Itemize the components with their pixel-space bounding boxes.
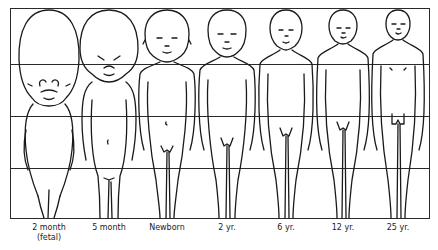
diagram-canvas <box>0 0 438 250</box>
label-text: 2 month <box>19 223 79 233</box>
label-2-yr: 2 yr. <box>197 223 257 233</box>
figure-newborn <box>139 10 195 218</box>
figure-5-month <box>80 10 138 218</box>
proportion-diagram: 2 month (fetal) 5 month Newborn 2 yr. 6 … <box>0 0 438 250</box>
diagram-frame <box>11 9 430 219</box>
label-6-yr: 6 yr. <box>256 223 316 233</box>
label-2-month: 2 month (fetal) <box>19 223 79 243</box>
figure-6-yr <box>259 10 313 218</box>
figure-12-yr <box>317 10 369 218</box>
label-25-yr: 25 yr. <box>368 223 428 233</box>
figure-2-month-fetal <box>19 10 79 218</box>
label-12-yr: 12 yr. <box>313 223 373 233</box>
label-newborn: Newborn <box>137 223 197 233</box>
figure-2-yr <box>199 10 255 218</box>
label-5-month: 5 month <box>79 223 139 233</box>
figure-25-yr <box>372 10 424 218</box>
label-subtext: (fetal) <box>19 233 79 243</box>
